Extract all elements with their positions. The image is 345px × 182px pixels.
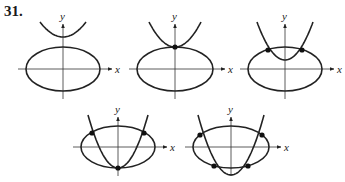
y-axis-label: y: [227, 103, 233, 115]
intersection-point: [115, 165, 120, 170]
figure-31: 31. xyxyxyxyxy: [0, 0, 345, 182]
intersection-point: [245, 163, 250, 168]
y-axis-label: y: [59, 10, 65, 22]
intersection-point: [265, 47, 270, 52]
intersection-point: [141, 130, 146, 135]
graph-panel-2: xy: [129, 10, 233, 99]
intersection-point: [299, 47, 304, 52]
y-axis-label: y: [281, 10, 287, 22]
graph-panel-5: xy: [185, 103, 289, 176]
x-axis-label: x: [169, 141, 175, 153]
intersection-point: [259, 132, 264, 137]
y-axis-label: y: [171, 10, 177, 22]
graphs-canvas: xyxyxyxyxy: [0, 0, 345, 182]
intersection-point: [172, 44, 177, 49]
problem-number: 31.: [4, 3, 23, 20]
graph-panel-4: xy: [73, 103, 175, 176]
graph-panel-3: xy: [240, 10, 342, 99]
intersection-point: [89, 130, 94, 135]
x-axis-label: x: [283, 141, 289, 153]
x-axis-label: x: [114, 63, 120, 75]
x-axis-label: x: [336, 63, 342, 75]
graph-panel-1: xy: [18, 10, 120, 99]
intersection-point: [211, 163, 216, 168]
y-axis-label: y: [114, 103, 120, 115]
x-axis-label: x: [227, 63, 233, 75]
intersection-point: [197, 132, 202, 137]
